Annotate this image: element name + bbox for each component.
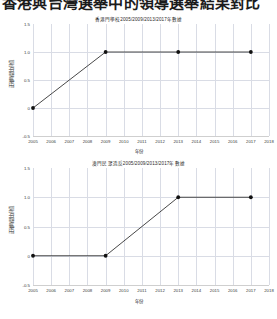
x-tick-label: 2006 [46,139,56,144]
x-tick-label: 2009 [101,288,111,293]
chart-title-top: 香港門學校2005/2009/2013/2017年數據 [0,16,277,22]
x-tick-label: 2018 [264,288,274,293]
x-tick-label: 2016 [228,139,238,144]
x-tick-label: 2018 [264,139,274,144]
chart-figure-top: 香港門學校2005/2009/2013/2017年數據 正確時間比例值 2005… [0,11,277,163]
y-tick-label: 0.5 [24,78,30,83]
data-point-marker [31,106,35,110]
page-header-text: 香港與台灣選舉中的領導選舉結果對比 [2,0,260,11]
x-tick-label: 2012 [155,139,165,144]
x-tick-label: 2017 [246,288,256,293]
data-series-line [33,24,269,136]
page-header-banner: 香港與台灣選舉中的領導選舉結果對比 [0,0,277,11]
x-tick-label: 2015 [210,139,220,144]
x-tick-label: 2010 [119,139,129,144]
data-point-marker [176,195,180,199]
x-tick-label: 2014 [192,288,202,293]
y-tick-label: 1.0 [24,50,30,55]
x-axis-label-bottom: 年份 [0,298,277,304]
x-tick-label: 2005 [28,139,38,144]
x-axis-label-top: 年份 [0,148,277,154]
x-tick-label: 2007 [65,139,75,144]
y-tick-label: 1.5 [24,22,30,27]
chart-figure-bottom: 澳門民眾造反2005/2009/2013/2017年數據 正確時間比例值 200… [0,155,277,319]
x-tick-label: 2007 [65,288,75,293]
y-tick-label: 0 [28,253,30,258]
x-tick-label: 2006 [46,288,56,293]
y-axis-label-top: 正確時間比例值 [8,51,14,97]
data-series-line [33,168,269,285]
x-tick-label: 2008 [83,288,93,293]
data-point-marker [176,50,180,54]
y-tick-label: 1.5 [24,166,30,171]
y-tick-label: -0.5 [22,134,30,139]
plot-area-top: 2005200620072008200920102011201220132014… [33,24,269,137]
data-point-marker [104,50,108,54]
x-tick-label: 2011 [137,288,146,293]
data-point-marker [249,50,253,54]
x-tick-label: 2011 [137,139,146,144]
data-point-marker [104,254,108,258]
chart-title-bottom: 澳門民眾造反2005/2009/2013/2017年數據 [0,160,277,166]
x-tick-label: 2014 [192,139,202,144]
x-tick-label: 2012 [155,288,165,293]
data-point-marker [249,195,253,199]
y-tick-label: 0.5 [24,224,30,229]
y-tick-label: 1.0 [24,195,30,200]
x-tick-label: 2017 [246,139,256,144]
plot-area-bottom: 2005200620072008200920102011201220132014… [33,168,269,286]
data-point-marker [31,254,35,258]
x-tick-label: 2009 [101,139,111,144]
x-tick-label: 2013 [173,288,183,293]
y-tick-label: 0 [28,106,30,111]
x-tick-label: 2015 [210,288,220,293]
x-tick-label: 2016 [228,288,238,293]
x-tick-label: 2010 [119,288,129,293]
x-tick-label: 2008 [83,139,93,144]
gridline-vertical [269,24,270,136]
x-tick-label: 2013 [173,139,183,144]
y-tick-label: -0.5 [22,283,30,288]
x-tick-label: 2005 [28,288,38,293]
y-axis-label-bottom: 正確時間比例值 [8,197,14,243]
gridline-vertical [269,168,270,285]
